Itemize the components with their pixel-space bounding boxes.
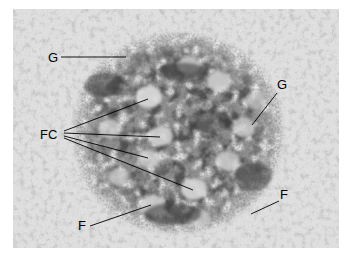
- micrograph-image: [13, 9, 339, 248]
- micrograph-canvas: [13, 9, 339, 248]
- micrograph-figure: G G FC F F: [0, 0, 351, 258]
